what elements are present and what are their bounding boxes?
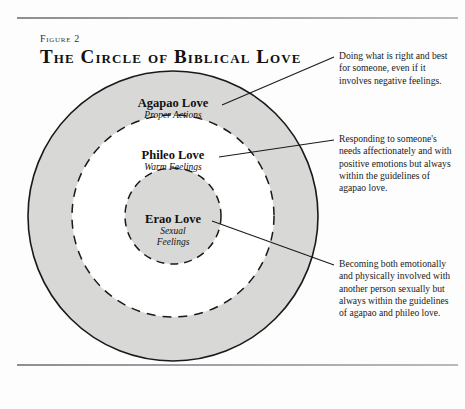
ring-label-agapao: Agapao Love Proper Actions [93, 96, 253, 121]
annotation-phileo: Responding to someone's needs affectiona… [339, 133, 457, 195]
ring-label-erao-title: Erao Love [93, 212, 253, 226]
ring-label-phileo-subtitle: Warm Feelings [93, 162, 253, 173]
annotation-erao: Becoming both emotionally and physically… [339, 258, 457, 320]
ring-label-phileo: Phileo Love Warm Feelings [93, 148, 253, 173]
figure-page: Figure 2 The Circle of Biblical Love Aga… [0, 0, 465, 409]
ring-label-agapao-subtitle: Proper Actions [93, 110, 253, 121]
ring-label-agapao-title: Agapao Love [93, 96, 253, 110]
bottom-divider-rule [17, 364, 458, 366]
ring-label-erao: Erao Love Sexual Feelings [93, 212, 253, 248]
ring-label-erao-subtitle-line2: Feelings [93, 237, 253, 248]
annotation-agapao: Doing what is right and best for someone… [339, 50, 457, 87]
ring-label-erao-subtitle-line1: Sexual [93, 226, 253, 237]
ring-label-phileo-title: Phileo Love [93, 148, 253, 162]
